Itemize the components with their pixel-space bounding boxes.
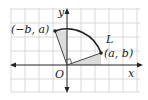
y-axis-label: y	[57, 6, 65, 19]
arc-label: L	[105, 33, 113, 46]
point-original	[99, 51, 103, 55]
rotation-diagram: y x O L (a, b) (−b, a)	[0, 0, 148, 100]
point-rotated-label: (−b, a)	[11, 23, 49, 36]
point-rotated	[53, 29, 57, 33]
x-axis-label: x	[128, 67, 135, 80]
x-axis-arrow-right-icon	[137, 63, 143, 68]
origin-label: O	[55, 68, 64, 81]
point-original-label: (a, b)	[104, 47, 133, 60]
